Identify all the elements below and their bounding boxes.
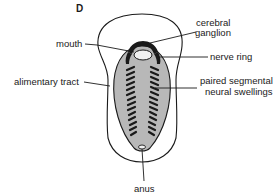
organism-diagram: D [0, 0, 277, 195]
label-mouth: mouth [56, 38, 82, 49]
anus-opening [139, 145, 146, 149]
mouth-opening [134, 50, 152, 60]
leader-cerebral-ganglion [150, 32, 196, 43]
leader-alimentary-tract [84, 82, 110, 86]
leader-anus [142, 149, 144, 181]
panel-label: D [76, 3, 83, 14]
label-alimentary-tract: alimentary tract [14, 76, 79, 87]
label-anus: anus [134, 183, 155, 194]
label-ganglion: ganglion [195, 27, 231, 38]
label-nerve-ring: nerve ring [210, 51, 252, 62]
alimentary-tract-shape [114, 46, 171, 151]
label-paired-segmental: paired segmental [200, 75, 273, 86]
label-neural-swellings: neural swellings [205, 86, 273, 97]
leader-mouth [85, 44, 134, 52]
